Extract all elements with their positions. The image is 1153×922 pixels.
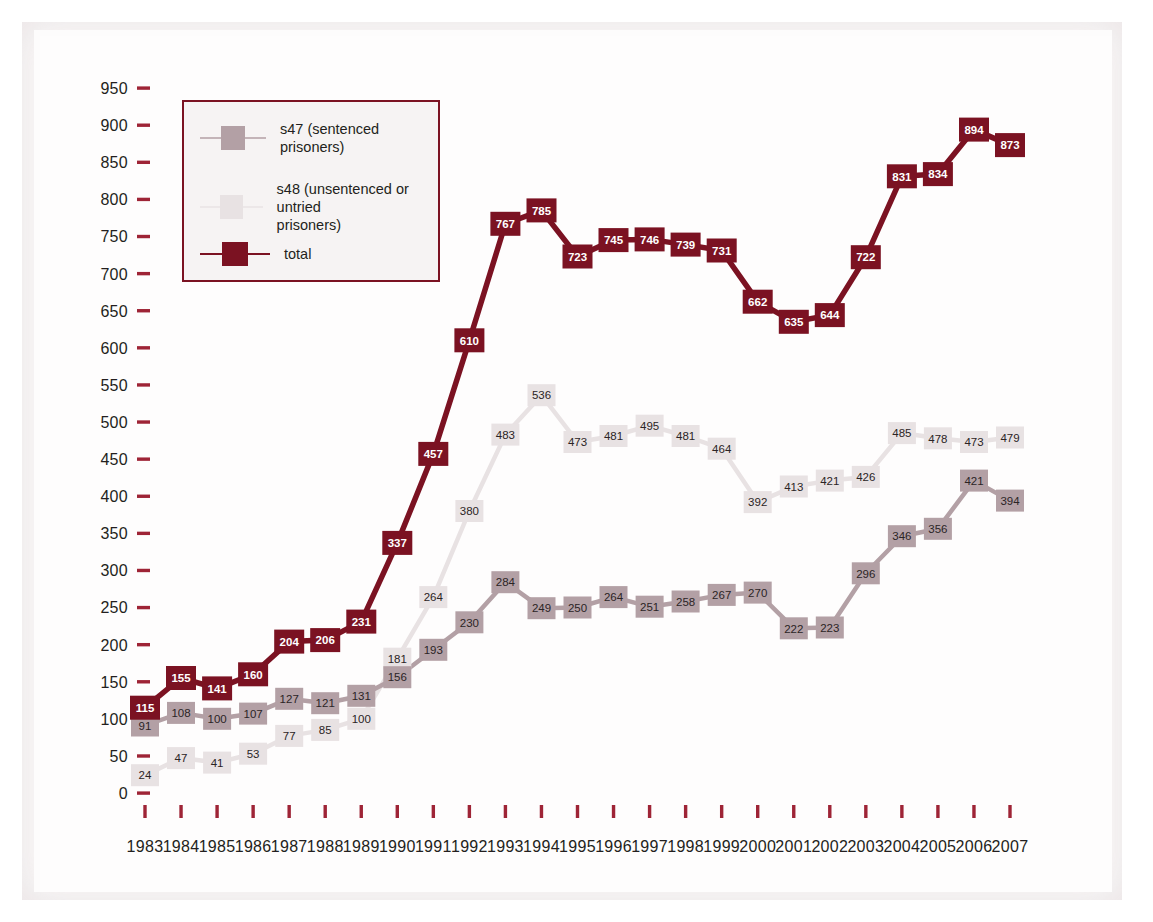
- y-axis-tick-label: 50: [110, 748, 128, 765]
- data-point-s47: 156: [383, 666, 411, 688]
- data-point-value-label: 284: [496, 576, 516, 588]
- y-axis-tick-mark: [137, 791, 150, 794]
- x-axis-tick-label: 1983: [127, 838, 164, 855]
- data-point-value-label: 24: [139, 769, 152, 781]
- data-point-s47: 222: [780, 617, 808, 639]
- data-point-value-label: 745: [604, 234, 624, 246]
- data-point-s47: 251: [636, 596, 664, 618]
- data-point-value-label: 346: [892, 530, 911, 542]
- data-point-value-label: 473: [568, 436, 587, 448]
- legend-item-s47[interactable]: s47 (sentenced prisoners): [200, 120, 438, 156]
- x-axis: 1983198419851986198719881989199019911992…: [127, 805, 1029, 855]
- data-point-value-label: 47: [175, 752, 188, 764]
- data-point-value-label: 223: [820, 622, 839, 634]
- y-axis-tick-mark: [137, 86, 150, 89]
- data-point-total: 204: [274, 630, 304, 654]
- x-axis-tick-label: 1995: [559, 838, 596, 855]
- data-point-s48: 536: [528, 384, 556, 406]
- data-point-value-label: 478: [928, 433, 947, 445]
- data-point-s47: 394: [996, 490, 1024, 512]
- data-point-value-label: 785: [532, 205, 552, 217]
- x-axis-tick-label: 2007: [992, 838, 1029, 855]
- data-point-value-label: 100: [208, 713, 227, 725]
- data-point-s47: 296: [852, 562, 880, 584]
- data-point-value-label: 723: [568, 251, 587, 263]
- data-point-total: 785: [527, 198, 557, 222]
- data-point-value-label: 296: [856, 568, 875, 580]
- data-point-value-label: 264: [604, 591, 624, 603]
- data-point-value-label: 258: [676, 596, 695, 608]
- y-axis-tick-mark: [137, 606, 150, 609]
- data-point-value-label: 731: [712, 245, 732, 257]
- data-point-s48: 413: [780, 476, 808, 498]
- data-point-s48: 53: [239, 743, 267, 765]
- data-point-total: 731: [707, 239, 737, 263]
- y-axis: 0501001502002503003504004505005506006507…: [100, 80, 150, 802]
- y-axis-tick-label: 900: [100, 117, 128, 134]
- data-point-value-label: 635: [784, 316, 804, 328]
- y-axis-tick-label: 450: [100, 451, 128, 468]
- x-axis-tick-label: 1985: [199, 838, 236, 855]
- x-axis-tick-mark: [540, 805, 543, 818]
- data-point-value-label: 100: [352, 713, 371, 725]
- data-point-s48: 47: [167, 747, 195, 769]
- x-axis-tick-label: 1996: [595, 838, 632, 855]
- x-axis-tick-mark: [828, 805, 831, 818]
- x-axis-tick-label: 1989: [343, 838, 380, 855]
- data-point-s47: 421: [960, 470, 988, 492]
- data-point-value-label: 156: [388, 671, 407, 683]
- x-axis-tick-label: 2004: [883, 838, 920, 855]
- y-axis-tick-label: 400: [100, 488, 128, 505]
- x-axis-tick-mark: [287, 805, 290, 818]
- data-point-value-label: 426: [856, 471, 875, 483]
- data-point-total: 160: [238, 662, 268, 686]
- data-point-total: 141: [202, 676, 232, 700]
- data-point-total: 894: [959, 118, 989, 142]
- y-axis-tick-mark: [137, 346, 150, 349]
- data-point-s48: 473: [960, 431, 988, 453]
- legend-item-label: s48 (unsentenced or untried prisoners): [277, 180, 438, 234]
- y-axis-tick-label: 650: [100, 303, 128, 320]
- x-axis-tick-mark: [756, 805, 759, 818]
- x-axis-tick-label: 2003: [847, 838, 884, 855]
- legend-line-left: [200, 253, 222, 255]
- x-axis-tick-mark: [432, 805, 435, 818]
- data-point-value-label: 181: [388, 653, 407, 665]
- data-point-value-label: 485: [892, 427, 911, 439]
- data-point-s47: 193: [419, 639, 447, 661]
- data-point-total: 745: [599, 228, 629, 252]
- data-point-value-label: 264: [424, 591, 444, 603]
- data-point-value-label: 193: [424, 644, 443, 656]
- legend-item-total[interactable]: total: [200, 242, 311, 266]
- data-point-s47: 121: [311, 692, 339, 714]
- x-axis-tick-mark: [972, 805, 975, 818]
- y-axis-tick-label: 550: [100, 377, 128, 394]
- legend-item-s48[interactable]: s48 (unsentenced or untried prisoners): [200, 180, 438, 234]
- data-point-s48: 478: [924, 427, 952, 449]
- data-point-value-label: 644: [820, 309, 840, 321]
- data-point-s48: 495: [636, 415, 664, 437]
- y-axis-tick-label: 750: [100, 228, 128, 245]
- data-point-s48: 85: [311, 719, 339, 741]
- y-axis-tick-mark: [137, 495, 150, 498]
- y-axis-tick-mark: [137, 569, 150, 572]
- data-point-s48: 479: [996, 427, 1024, 449]
- x-axis-tick-label: 1987: [271, 838, 308, 855]
- y-axis-tick-label: 300: [100, 562, 128, 579]
- data-point-total: 457: [418, 442, 448, 466]
- x-axis-tick-label: 2000: [739, 838, 776, 855]
- data-point-s47: 250: [564, 597, 592, 619]
- y-axis-tick-mark: [137, 272, 150, 275]
- chart-page: 0501001502002503003504004505005506006507…: [0, 0, 1153, 922]
- x-axis-tick-mark: [612, 805, 615, 818]
- data-point-s47: 230: [455, 611, 483, 633]
- data-point-value-label: 231: [352, 616, 372, 628]
- data-point-value-label: 127: [280, 693, 299, 705]
- legend-line-left: [200, 137, 221, 139]
- y-axis-tick-mark: [137, 457, 150, 460]
- y-axis-tick-label: 850: [100, 154, 128, 171]
- x-axis-tick-label: 2005: [920, 838, 957, 855]
- data-point-s48: 464: [708, 438, 736, 460]
- data-point-s48: 77: [275, 725, 303, 747]
- data-point-s47: 131: [347, 685, 375, 707]
